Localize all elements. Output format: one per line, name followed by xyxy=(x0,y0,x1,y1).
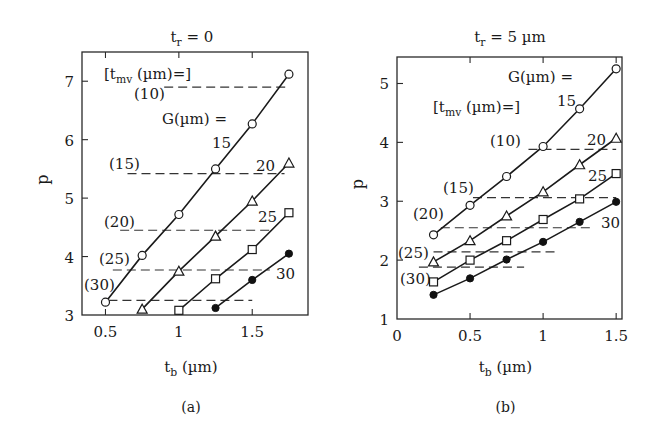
circle-marker xyxy=(175,210,183,218)
triangle-marker xyxy=(465,236,475,245)
annotation-label: 25 xyxy=(588,167,607,185)
annotation-label: [tmv (µm)=] xyxy=(433,98,520,119)
y-tick-label: 6 xyxy=(64,132,74,150)
filled-circle-marker xyxy=(613,198,620,205)
annotation-label: 20 xyxy=(256,157,275,175)
filled-circle-marker xyxy=(576,218,583,225)
annotation-label: (25) xyxy=(398,244,429,262)
filled-circle-marker xyxy=(212,304,219,311)
filled-circle-marker xyxy=(466,275,473,282)
x-axis-label: tb (µm) xyxy=(479,358,532,379)
figure: tr = 00.511.534567tb (µm)p(a)[tmv (µm)=]… xyxy=(0,0,656,432)
panel-label: (b) xyxy=(496,399,516,415)
series-line-g15 xyxy=(105,74,288,302)
annotation-label: (15) xyxy=(109,155,140,173)
annotation-label: (20) xyxy=(413,205,444,223)
y-tick-label: 7 xyxy=(64,73,74,91)
annotation-label: (30) xyxy=(84,276,115,294)
x-axis-label: tb (µm) xyxy=(164,358,217,379)
y-tick-label: 5 xyxy=(379,75,389,93)
circle-marker xyxy=(212,165,220,173)
x-tick-label: 1.5 xyxy=(604,327,628,345)
square-marker xyxy=(285,209,293,217)
annotation-label: 15 xyxy=(212,134,231,152)
annotation-label: (10) xyxy=(134,85,165,103)
y-tick-label: 4 xyxy=(64,249,74,267)
annotation-label: 15 xyxy=(557,92,576,110)
triangle-marker xyxy=(502,211,512,220)
y-tick-label: 2 xyxy=(379,252,389,270)
annotation-label: 25 xyxy=(258,208,277,226)
y-tick-label: 3 xyxy=(379,193,389,211)
square-marker xyxy=(539,215,547,223)
annotation-label: (30) xyxy=(400,270,431,288)
series-line-g15 xyxy=(434,69,617,235)
y-tick-label: 1 xyxy=(379,311,389,329)
square-marker xyxy=(175,306,183,314)
x-tick-label: 0.5 xyxy=(458,327,482,345)
filled-circle-marker xyxy=(249,276,256,283)
panel-label: (a) xyxy=(181,399,200,415)
y-tick-label: 5 xyxy=(64,190,74,208)
chart-panel-a: tr = 00.511.534567tb (µm)p(a)[tmv (µm)=]… xyxy=(33,28,308,415)
chart-title: tr = 0 xyxy=(171,28,214,49)
annotation-label: G(µm) = xyxy=(162,110,227,128)
x-tick-label: 0 xyxy=(392,327,402,345)
triangle-marker xyxy=(284,158,294,167)
filled-circle-marker xyxy=(503,256,510,263)
annotation-label: 20 xyxy=(587,131,606,149)
annotation-label: G(µm) = xyxy=(508,68,573,86)
chart-title: tr = 5 µm xyxy=(474,28,546,49)
square-marker xyxy=(212,275,220,283)
annotation-label: (20) xyxy=(104,213,135,231)
circle-marker xyxy=(101,298,109,306)
series-line-g25 xyxy=(179,213,289,311)
x-tick-label: 1 xyxy=(538,327,548,345)
square-marker xyxy=(503,237,511,245)
circle-marker xyxy=(466,201,474,209)
y-axis-label: p xyxy=(33,174,52,184)
triangle-marker xyxy=(611,133,621,142)
circle-marker xyxy=(503,173,511,181)
circle-marker xyxy=(285,70,293,78)
chart-panel-b: tr = 5 µm00.511.512345tb (µm)p(b)G(µm) =… xyxy=(348,28,628,415)
circle-marker xyxy=(248,120,256,128)
annotation-label: (25) xyxy=(99,250,130,268)
triangle-marker xyxy=(429,257,439,266)
circle-marker xyxy=(576,105,584,113)
x-tick-label: 0.5 xyxy=(94,323,118,341)
annotation-label: 30 xyxy=(276,265,295,283)
y-tick-label: 3 xyxy=(64,307,74,325)
annotation-label: [tmv (µm)=] xyxy=(104,65,191,86)
circle-marker xyxy=(539,142,547,150)
series-line-g30 xyxy=(434,202,617,295)
figure-svg: tr = 00.511.534567tb (µm)p(a)[tmv (µm)=]… xyxy=(0,0,656,432)
filled-circle-marker xyxy=(285,250,292,257)
triangle-marker xyxy=(575,160,585,169)
circle-marker xyxy=(612,65,620,73)
triangle-marker xyxy=(538,187,548,196)
circle-marker xyxy=(138,251,146,259)
square-marker xyxy=(466,256,474,264)
annotation-label: (15) xyxy=(443,179,474,197)
plot-frame xyxy=(82,52,308,315)
annotation-label: (10) xyxy=(490,132,521,150)
annotation-label: 30 xyxy=(601,214,620,232)
square-marker xyxy=(612,170,620,178)
square-marker xyxy=(248,246,256,254)
filled-circle-marker xyxy=(540,238,547,245)
series-line-g20 xyxy=(434,138,617,262)
y-tick-label: 4 xyxy=(379,134,389,152)
square-marker xyxy=(576,195,584,203)
y-axis-label: p xyxy=(348,179,367,189)
circle-marker xyxy=(430,231,438,239)
x-tick-label: 1.5 xyxy=(240,323,264,341)
filled-circle-marker xyxy=(430,291,437,298)
x-tick-label: 1 xyxy=(174,323,184,341)
